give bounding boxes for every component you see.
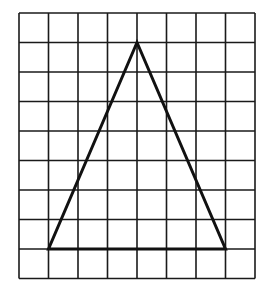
grid-triangle-figure <box>0 0 269 299</box>
